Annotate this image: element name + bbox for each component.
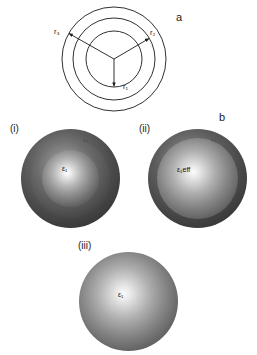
- sphere-i-core: [42, 150, 99, 207]
- sphere-label-ii: (ii): [139, 123, 150, 134]
- panel-label-b: b: [219, 111, 225, 123]
- radius-label-r2: r₂: [150, 28, 155, 37]
- sphere-label-iii: (iii): [78, 240, 91, 251]
- sphere-i-core-permittivity-label: ε₁: [62, 165, 67, 172]
- radius-arrow-r2: [114, 39, 149, 60]
- sphere-label-i: (i): [10, 123, 19, 134]
- radius-label-r1: r₁: [123, 82, 128, 91]
- sphere-ii-effective-core: [157, 138, 238, 219]
- radius-label-r3: r₃: [54, 27, 60, 36]
- sphere-iii-permittivity-label: ε₁: [118, 291, 123, 298]
- panel-label-a: a: [176, 11, 182, 23]
- sphere-i-shell-permittivity-label: ε₂: [83, 137, 88, 143]
- sphere-ii-shell-permittivity-label: ε₂: [211, 137, 216, 143]
- panel-a-concentric-circles: r₁ r₂ r₃: [0, 0, 257, 118]
- sphere-ii-core-permittivity-label: ε₁eff: [177, 166, 190, 173]
- sphere-iii-homogeneous-body: [79, 252, 178, 351]
- radius-arrow-r3: [69, 34, 114, 60]
- figure-root: r₁ r₂ r₃ a b (i) ε₁ ε₂ (ii) ε₁eff ε₂ (ii…: [0, 0, 257, 355]
